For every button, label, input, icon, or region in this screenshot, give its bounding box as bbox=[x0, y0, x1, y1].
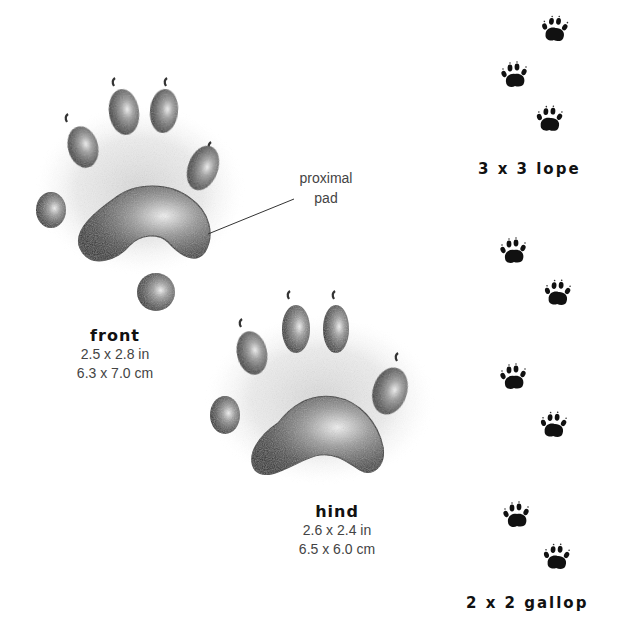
hind-size-cm: 6.5 x 6.0 cm bbox=[262, 540, 412, 559]
hind-print-label: hind 2.6 x 2.4 in 6.5 x 6.0 cm bbox=[262, 502, 412, 559]
proximal-pad-callout: proximal pad bbox=[286, 168, 366, 208]
hind-title: hind bbox=[262, 502, 412, 521]
lope-track-pattern bbox=[480, 0, 600, 150]
front-title: front bbox=[40, 326, 190, 345]
gallop-label: 2 x 2 gallop bbox=[466, 594, 588, 612]
hind-size-in: 2.6 x 2.4 in bbox=[262, 521, 412, 540]
hind-print-illustration bbox=[200, 285, 440, 495]
lope-label: 3 x 3 lope bbox=[478, 160, 581, 178]
track-icon bbox=[535, 104, 564, 132]
front-size-in: 2.5 x 2.8 in bbox=[40, 345, 190, 364]
front-print-label: front 2.5 x 2.8 in 6.3 x 7.0 cm bbox=[40, 326, 190, 383]
track-icon bbox=[539, 410, 569, 438]
track-icon bbox=[499, 237, 526, 263]
track-icon bbox=[500, 61, 527, 87]
track-icon bbox=[543, 278, 573, 306]
track-icon bbox=[502, 501, 529, 527]
gallop-track-pattern bbox=[480, 230, 600, 580]
track-icon bbox=[542, 542, 572, 570]
callout-line1: proximal bbox=[286, 168, 366, 188]
callout-line2: pad bbox=[286, 188, 366, 208]
track-icon bbox=[499, 363, 526, 389]
track-icon bbox=[539, 13, 569, 42]
front-size-cm: 6.3 x 7.0 cm bbox=[40, 364, 190, 383]
